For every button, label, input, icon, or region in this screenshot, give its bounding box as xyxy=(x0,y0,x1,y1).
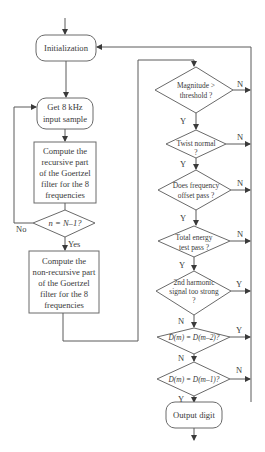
dm1-label: D(m) = D(m–1)? xyxy=(168,375,220,384)
magnitude-yes-label: Y xyxy=(180,116,186,126)
dm2-label: D(m) = D(m–2)? xyxy=(168,333,220,342)
harmonic-decision-node: 2nd harmonic signal too strong ? xyxy=(156,271,231,315)
nonrecursive-line-5: frequencies xyxy=(44,300,84,310)
nonrecursive-line-3: of the Goertzel xyxy=(38,278,90,288)
total-energy-line-1: Total energy xyxy=(176,233,213,242)
recursive-compute-node: Compute the recursive part of the Goertz… xyxy=(34,142,96,203)
harmonic-line-1: 2nd harmonic xyxy=(174,278,216,287)
twist-decision-node: Twist normal ? xyxy=(166,130,226,158)
magnitude-line-1: Magnitude > xyxy=(177,81,215,90)
output-digit-label: Output digit xyxy=(173,410,215,420)
loop-decision-node: n = N–1? xyxy=(33,210,95,237)
dm1-decision-node: D(m) = D(m–1)? xyxy=(157,362,230,396)
harmonic-line-2: signal too strong xyxy=(169,287,219,296)
nonrecursive-line-2: non-recursive part xyxy=(33,267,96,277)
total-energy-yes-label: Y xyxy=(179,260,185,270)
dtmf-goertzel-flowchart: Initialization Get 8 kHz input sample Co… xyxy=(0,0,265,452)
twist-yes-label: Y xyxy=(180,159,186,169)
initialization-label: Initialization xyxy=(44,43,89,53)
harmonic-no-label: N xyxy=(178,316,184,326)
recursive-line-5: frequencies xyxy=(45,190,85,200)
twist-no-label: N xyxy=(237,132,243,142)
harmonic-line-3: ? xyxy=(192,296,195,305)
total-energy-line-2: test pass ? xyxy=(179,243,209,252)
initialization-node: Initialization xyxy=(36,35,96,61)
dm1-no-label: N xyxy=(236,365,242,375)
get-sample-node: Get 8 kHz input sample xyxy=(37,98,93,129)
dm2-yes-label: Y xyxy=(236,325,242,335)
dm2-decision-node: D(m) = D(m–2)? xyxy=(157,328,230,354)
output-digit-node: Output digit xyxy=(166,402,222,428)
loop-yes-label: Yes xyxy=(68,239,80,249)
nonrecursive-compute-node: Compute the non-recursive part of the Go… xyxy=(29,251,99,313)
twist-line-1: Twist normal xyxy=(176,139,215,148)
loop-no-arrow xyxy=(14,107,36,223)
magnitude-no-label: N xyxy=(237,79,243,89)
magnitude-decision-node: Magnitude > threshold ? xyxy=(155,67,233,113)
freq-offset-no-label: N xyxy=(237,178,243,188)
recursive-line-3: of the Goertzel xyxy=(39,168,91,178)
freq-offset-line-2: offset pass ? xyxy=(178,191,214,200)
recursive-line-4: filter for the 8 xyxy=(41,179,89,189)
freq-offset-line-1: Does frequency xyxy=(173,181,220,190)
recursive-line-1: Compute the xyxy=(43,146,87,156)
loop-no-label: No xyxy=(16,224,26,234)
get-sample-label-2: input sample xyxy=(43,114,87,124)
loop-decision-label: n = N–1? xyxy=(48,218,82,228)
dm2-no-label: N xyxy=(178,353,184,363)
total-energy-no-label: N xyxy=(237,229,243,239)
twist-line-2: ? xyxy=(194,148,197,157)
freq-offset-yes-label: Y xyxy=(180,213,186,223)
get-sample-label-1: Get 8 kHz xyxy=(47,102,83,112)
recursive-line-2: recursive part xyxy=(41,157,89,167)
nonrecursive-line-4: filter for the 8 xyxy=(40,289,88,299)
magnitude-line-2: threshold ? xyxy=(180,91,213,100)
harmonic-yes-label: Y xyxy=(236,279,242,289)
nonrecursive-line-1: Compute the xyxy=(42,256,86,266)
total-energy-decision-node: Total energy test pass ? xyxy=(158,226,230,257)
freq-offset-decision-node: Does frequency offset pass ? xyxy=(158,170,231,210)
